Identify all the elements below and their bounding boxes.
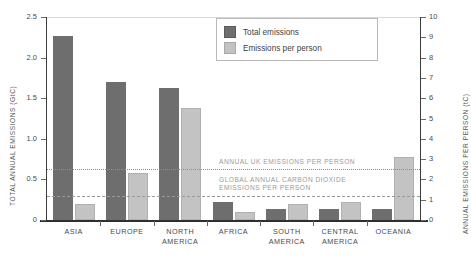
y-tick-right (421, 98, 426, 99)
x-tick (260, 221, 261, 226)
y-tick-label-right: 7 (429, 73, 457, 82)
y-tick-right (421, 139, 426, 140)
y-tick-label-left: 0.5 (9, 174, 37, 183)
y-tick-label-right: 3 (429, 154, 457, 163)
y-tick-label-right: 2 (429, 174, 457, 183)
y-tick-label-right: 0 (429, 215, 457, 224)
bar-emissions-per-person (288, 204, 308, 220)
y-axis-title-left: TOTAL ANNUAL EMISSIONS (GtC) (9, 86, 16, 206)
y-tick-right (421, 37, 426, 38)
category-label: OCEANIA (361, 227, 426, 237)
legend-label-emissions-per-person: Emissions per person (243, 44, 322, 53)
y-tick-right (421, 159, 426, 160)
uk-reference-line (47, 169, 420, 170)
bar-total-emissions (372, 209, 392, 220)
y-tick-label-right: 4 (429, 134, 457, 143)
legend-label-total-emissions: Total emissions (243, 28, 299, 37)
bar-emissions-per-person (181, 108, 201, 220)
y-tick-right (421, 119, 426, 120)
y-tick-right (421, 200, 426, 201)
y-tick-right (421, 17, 426, 18)
global-reference-line (47, 196, 420, 197)
y-tick-left (41, 17, 46, 18)
y-tick-right (421, 179, 426, 180)
legend-swatch-emissions-per-person (224, 42, 236, 54)
bar-emissions-per-person (235, 212, 255, 220)
legend-item-total-emissions: Total emissions (224, 24, 370, 40)
bar-total-emissions (213, 202, 233, 220)
y-tick-right (421, 58, 426, 59)
x-tick (367, 221, 368, 226)
y-axis-title-right: ANNUAL EMISSIONS PER PERSON (tC) (462, 94, 469, 234)
y-tick-left (41, 98, 46, 99)
y-tick-label-left: 2.0 (9, 53, 37, 62)
y-axis-left-line (46, 17, 47, 221)
global-reference-label: GLOBAL ANNUAL CARBON DIOXIDEEMISSIONS PE… (219, 176, 346, 192)
y-tick-left (41, 139, 46, 140)
y-tick-label-left: 1.0 (9, 134, 37, 143)
uk-reference-label: ANNUAL UK EMISSIONS PER PERSON (219, 158, 355, 166)
x-tick (207, 221, 208, 226)
x-tick (154, 221, 155, 226)
x-tick (313, 221, 314, 226)
y-tick-label-right: 5 (429, 114, 457, 123)
x-axis-line (40, 220, 428, 222)
y-tick-label-right: 1 (429, 195, 457, 204)
bar-emissions-per-person (394, 157, 414, 220)
bar-emissions-per-person (341, 202, 361, 220)
y-tick-label-right: 8 (429, 53, 457, 62)
y-tick-label-left: 0 (9, 215, 37, 224)
bar-total-emissions (319, 209, 339, 220)
y-tick-left (41, 220, 46, 221)
y-tick-right (421, 220, 426, 221)
chart-legend: Total emissions Emissions per person (216, 18, 378, 61)
emissions-bar-chart: TOTAL ANNUAL EMISSIONS (GtC) ANNUAL EMIS… (0, 0, 471, 258)
y-tick-label-right: 10 (429, 12, 457, 21)
y-tick-label-left: 1.5 (9, 93, 37, 102)
bar-total-emissions (266, 209, 286, 220)
legend-swatch-total-emissions (224, 26, 236, 38)
y-tick-label-right: 9 (429, 32, 457, 41)
bar-total-emissions (106, 82, 126, 220)
bar-emissions-per-person (128, 173, 148, 220)
bar-total-emissions (159, 88, 179, 220)
legend-item-emissions-per-person: Emissions per person (224, 40, 370, 56)
y-tick-label-right: 6 (429, 93, 457, 102)
x-tick (100, 221, 101, 226)
y-tick-left (41, 58, 46, 59)
y-tick-label-left: 2.5 (9, 12, 37, 21)
y-tick-right (421, 78, 426, 79)
bar-total-emissions (53, 36, 73, 220)
bar-emissions-per-person (75, 204, 95, 220)
y-tick-left (41, 179, 46, 180)
